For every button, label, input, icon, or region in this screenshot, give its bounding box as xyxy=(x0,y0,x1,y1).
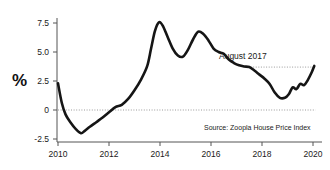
chart-background xyxy=(0,0,330,170)
august-2017-annotation: August 2017 xyxy=(219,51,267,61)
x-tick-label-2010: 2010 xyxy=(49,149,68,159)
line-chart: 7.5 5.0 2.5 0 -2.5 % 2010 2012 2014 2016… xyxy=(0,0,330,170)
y-tick-label-5-0: 5.0 xyxy=(37,47,49,57)
x-tick-label-2016: 2016 xyxy=(202,149,221,159)
x-tick-label-2014: 2014 xyxy=(151,149,170,159)
y-tick-label-0: 0 xyxy=(44,105,49,115)
y-tick-label-7-5: 7.5 xyxy=(37,18,49,28)
x-tick-label-2018: 2018 xyxy=(253,149,272,159)
y-tick-label-2-5: 2.5 xyxy=(37,76,49,86)
x-tick-label-2020: 2020 xyxy=(304,149,323,159)
y-tick-label-minus-2-5: -2.5 xyxy=(34,134,49,144)
chart-container: 7.5 5.0 2.5 0 -2.5 % 2010 2012 2014 2016… xyxy=(0,0,330,170)
y-axis-title: % xyxy=(12,71,27,90)
source-annotation: Source: Zoopla House Price Index xyxy=(204,124,311,132)
x-tick-label-2012: 2012 xyxy=(100,149,119,159)
